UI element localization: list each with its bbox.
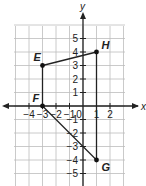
point-H <box>94 50 99 55</box>
point-label-E: E <box>34 51 42 63</box>
point-E <box>40 63 45 68</box>
x-axis-right-arrow-icon <box>132 103 139 109</box>
y-tick-label: 5 <box>72 33 78 44</box>
coordinate-plane: xy −4−3−2−121054321−1−2−3−4−5 EHFG <box>0 0 146 186</box>
x-tick-label: −2 <box>50 109 62 120</box>
point-label-G: G <box>102 161 111 173</box>
y-tick-label: −1 <box>67 114 79 125</box>
y-tick-label: −4 <box>67 155 79 166</box>
y-tick-label: 3 <box>72 60 78 71</box>
x-tick-label: −4 <box>23 109 35 120</box>
y-axis-label: y <box>79 1 86 12</box>
point-F <box>40 104 45 109</box>
y-axis-up-arrow-icon <box>80 12 86 19</box>
point-label-F: F <box>33 92 40 104</box>
point-label-H: H <box>102 39 111 51</box>
y-tick-label: 4 <box>72 47 78 58</box>
x-axis-label: x <box>140 101 146 112</box>
y-tick-label: 1 <box>72 87 78 98</box>
point-G <box>94 158 99 163</box>
x-tick-label: 2 <box>107 109 113 120</box>
y-tick-label: −3 <box>67 141 79 152</box>
y-tick-label: 2 <box>72 74 78 85</box>
y-tick-label: −5 <box>67 168 79 179</box>
x-axis-left-arrow-icon <box>2 103 9 109</box>
